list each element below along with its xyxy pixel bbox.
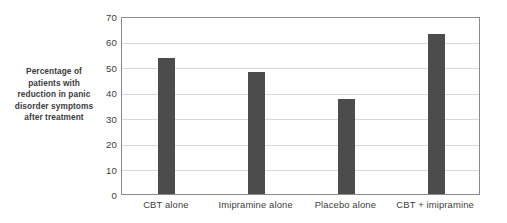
plot-area: [121, 17, 480, 195]
y-axis-tick-label: 60: [57, 37, 117, 48]
bar-chart-figure: Percentage of patients with reduction in…: [0, 0, 507, 223]
y-axis-tick-label: 70: [57, 12, 117, 23]
gridline: [122, 68, 479, 69]
y-axis-tick-label: 20: [57, 139, 117, 150]
gridline: [122, 94, 479, 95]
x-axis-tick-label: CBT alone: [143, 199, 188, 210]
y-axis-tick-label: 10: [57, 164, 117, 175]
bar: [248, 72, 265, 194]
y-axis-title-line-4: disorder symptoms: [4, 101, 104, 113]
x-axis-tick-label: CBT + imipramine: [396, 199, 474, 210]
gridline: [122, 119, 479, 120]
y-axis-tick-label: 40: [57, 88, 117, 99]
y-axis-tick-label: 30: [57, 113, 117, 124]
bar: [428, 34, 445, 194]
bar: [158, 58, 175, 194]
gridline: [122, 43, 479, 44]
y-axis-tick-label: 0: [57, 190, 117, 201]
y-axis-tick-label: 50: [57, 62, 117, 73]
x-axis-tick-label: Imipramine alone: [218, 199, 292, 210]
gridline: [122, 170, 479, 171]
bar: [338, 99, 355, 194]
x-axis-tick-label: Placebo alone: [315, 199, 376, 210]
gridline: [122, 145, 479, 146]
